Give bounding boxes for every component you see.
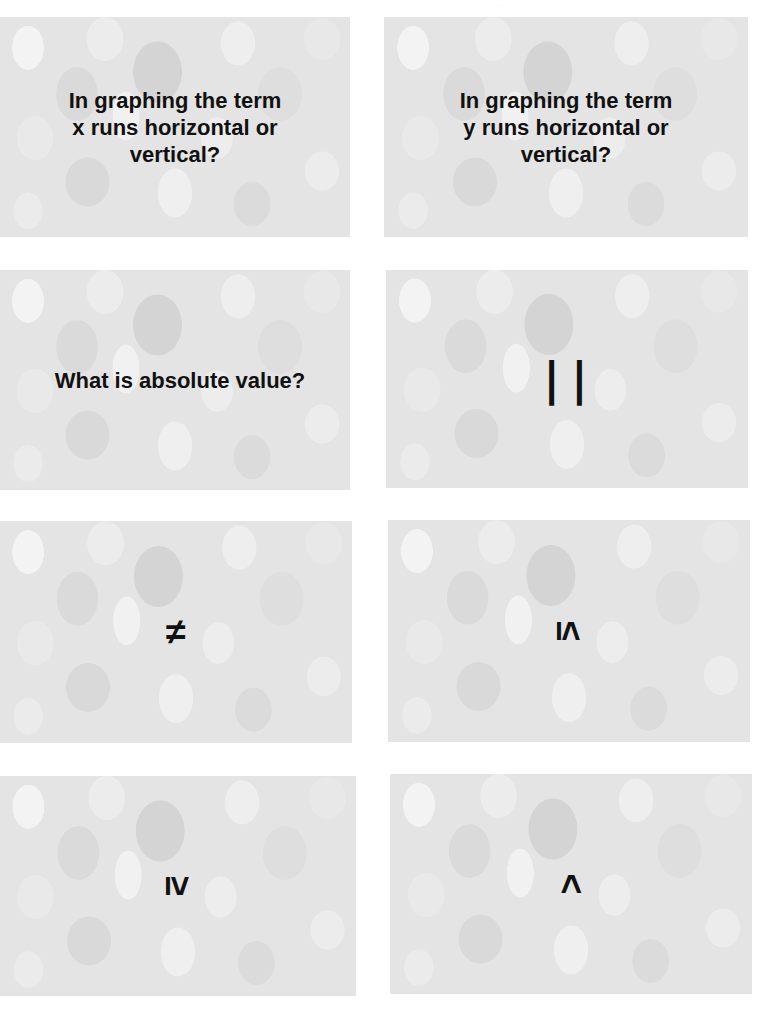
not-equal-symbol: ≠ bbox=[166, 612, 186, 652]
flashcard-less-equal-symbol: ≤ bbox=[388, 520, 750, 742]
less-than-symbol: < bbox=[551, 873, 591, 894]
flashcard-not-equal-symbol: ≠ bbox=[0, 521, 352, 743]
flashcard-y-axis-question: In graphing the term y runs horizontal o… bbox=[384, 17, 748, 237]
card-question-text: What is absolute value? bbox=[45, 367, 306, 394]
header-note: · · · · · bbox=[440, 2, 560, 10]
card-question-text: In graphing the term y runs horizontal o… bbox=[440, 87, 693, 168]
absolute-value-bars-symbol: | | bbox=[546, 359, 588, 399]
flashcard-x-axis-question: In graphing the term x runs horizontal o… bbox=[0, 17, 350, 237]
greater-than-or-equal-symbol: ≥ bbox=[158, 876, 198, 896]
less-than-or-equal-symbol: ≤ bbox=[549, 621, 589, 641]
flashcard-absolute-value-question: What is absolute value? bbox=[0, 270, 350, 490]
card-question-text: In graphing the term x runs horizontal o… bbox=[49, 87, 302, 168]
flashcard-greater-equal-symbol: ≥ bbox=[0, 776, 356, 996]
flashcard-less-than-symbol: < bbox=[390, 774, 752, 994]
flashcard-absolute-value-symbol: | | bbox=[386, 270, 748, 488]
